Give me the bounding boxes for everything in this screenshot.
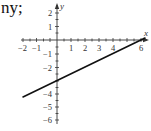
x-tick-label: 2 — [83, 43, 87, 53]
x-tick-label: 1 — [69, 43, 73, 53]
y-tick-label: −5 — [43, 102, 52, 112]
x-axis-label: x — [143, 28, 148, 38]
y-tick-label: 1 — [48, 22, 52, 32]
x-tick-label: 6 — [139, 43, 143, 53]
y-axis-arrow-icon — [55, 3, 59, 9]
y-tick-label: −6 — [43, 115, 52, 125]
y-tick-label: −2 — [43, 63, 52, 73]
y-axis-label: y — [59, 1, 64, 11]
x-tick-label: −1 — [32, 43, 41, 53]
x-tick-label: −2 — [18, 43, 27, 53]
y-tick-label: −4 — [43, 89, 53, 99]
y-tick-label: 2 — [48, 8, 52, 18]
y-tick-label: −1 — [43, 49, 52, 59]
x-tick-label: 3 — [97, 43, 101, 53]
coordinate-plane: x y −2 −1 1 2 3 4 6 2 1 −1 −2 −4 −5 −6 — [0, 0, 151, 131]
